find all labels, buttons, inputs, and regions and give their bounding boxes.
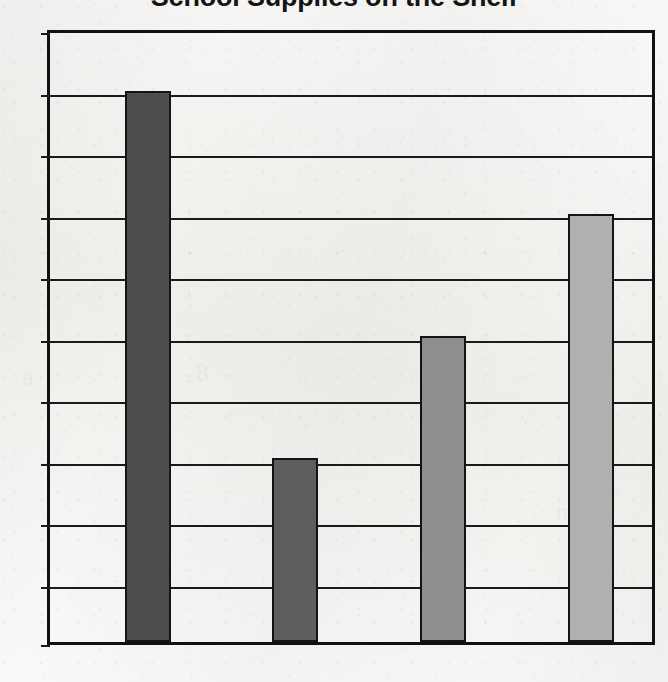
ytick-mark-7	[41, 218, 50, 220]
ytick-mark-4	[41, 402, 50, 404]
bar-glue-sticks	[568, 214, 614, 642]
plot-area: 0 9 8 7 6 5 4 3 2 0 Markers Staplers Rul…	[47, 30, 655, 645]
ytick-mark-0	[41, 645, 50, 647]
ytick-mark-9	[41, 95, 50, 97]
ytick-mark-5	[41, 341, 50, 343]
ytick-mark-1	[41, 587, 50, 589]
ytick-mark-8	[41, 156, 50, 158]
ytick-mark-10	[41, 33, 50, 35]
bar-staplers	[272, 458, 318, 642]
chart-title: School Supplies on the Shelf	[0, 0, 668, 13]
paper-bleed-mark: a	[22, 362, 34, 392]
ytick-mark-2	[41, 525, 50, 527]
ytick-mark-3	[41, 464, 50, 466]
ytick-mark-6	[41, 279, 50, 281]
bar-rulers	[420, 336, 466, 642]
chart-page: a 8 d m School Supplies on the Shelf 0 9…	[0, 0, 668, 682]
bar-markers	[125, 91, 171, 642]
